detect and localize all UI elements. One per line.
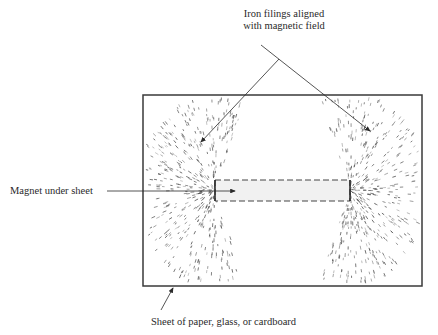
- sheet-pointer: [161, 288, 173, 310]
- filings-pointer-right: [261, 45, 370, 131]
- magnet-label: Magnet under sheet: [10, 185, 93, 197]
- filings-pointer-left: [201, 59, 279, 142]
- magnet-iron-filings-diagram: [0, 0, 438, 335]
- filings-label-line1: Iron filings aligned: [224, 8, 344, 20]
- magnet-bar: [215, 180, 350, 201]
- filings-label: Iron filings aligned with magnetic field: [224, 8, 344, 32]
- sheet-label: Sheet of paper, glass, or cardboard: [151, 316, 296, 328]
- filings-label-line2: with magnetic field: [224, 20, 344, 32]
